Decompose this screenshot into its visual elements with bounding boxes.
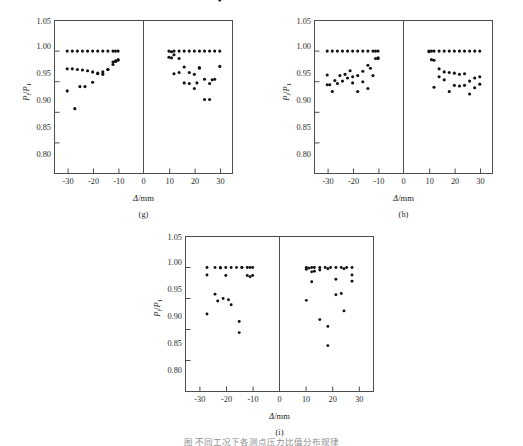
x-ticklabel: 10	[426, 177, 434, 186]
data-point	[478, 75, 481, 78]
x-tickmarks	[200, 387, 359, 392]
data-point	[432, 59, 435, 62]
data-point	[468, 80, 471, 83]
data-point	[478, 50, 481, 53]
data-point	[331, 90, 334, 93]
data-point	[224, 266, 227, 269]
data-point	[336, 82, 339, 85]
data-point	[246, 274, 249, 277]
data-point	[473, 50, 476, 53]
data-point	[326, 267, 329, 270]
y-ticklabel: 0.80	[36, 150, 51, 159]
data-point	[172, 72, 175, 75]
data-point	[329, 266, 332, 269]
data-point	[230, 266, 233, 269]
data-point	[216, 300, 219, 303]
data-point	[188, 71, 191, 74]
data-point	[356, 90, 359, 93]
data-point	[351, 266, 354, 269]
data-point	[443, 78, 446, 81]
y-axis-title-i: Pi/P1	[152, 299, 163, 318]
data-point	[432, 86, 435, 89]
data-point	[349, 69, 352, 72]
data-point	[334, 266, 337, 269]
data-point	[333, 79, 336, 82]
data-point	[66, 89, 69, 92]
data-point	[183, 50, 186, 53]
data-point	[326, 344, 329, 347]
data-point	[193, 73, 196, 76]
data-point	[91, 50, 94, 53]
data-point	[473, 86, 476, 89]
x-ticklabel: 0	[401, 177, 405, 186]
x-axis-unit: /mm	[138, 193, 154, 203]
data-point	[361, 70, 364, 73]
data-point	[238, 320, 241, 323]
data-point	[326, 73, 329, 76]
x-ticklabel: 30	[355, 395, 363, 404]
data-point	[310, 266, 313, 269]
data-point	[341, 50, 344, 53]
x-ticklabel: 30	[216, 177, 224, 186]
data-point	[463, 72, 466, 75]
data-point	[458, 50, 461, 53]
data-point	[351, 81, 354, 84]
chart-svg-g: 1.05 1.00 0.95 0.90 0.85 0.80 Pi/P1	[0, 0, 262, 223]
data-point	[81, 50, 84, 53]
data-point	[203, 50, 206, 53]
figure-panel-group: 1.05 1.00 0.95 0.90 0.85 0.80 Pi/P1	[0, 0, 523, 446]
data-point	[346, 50, 349, 53]
data-point	[172, 53, 175, 56]
data-point	[219, 267, 222, 270]
data-point	[351, 50, 354, 53]
y-ticklabel: 0.90	[167, 312, 182, 321]
data-point	[66, 50, 69, 53]
data-point	[369, 67, 372, 70]
chart-svg-i: 1.05 1.00 0.95 0.90 0.85 0.80 Pi/P1	[131, 216, 393, 439]
data-point	[208, 98, 211, 101]
data-point	[178, 50, 181, 53]
data-point	[356, 50, 359, 53]
data-point	[453, 72, 456, 75]
data-point	[443, 50, 446, 53]
data-point	[468, 50, 471, 53]
data-point	[438, 75, 441, 78]
x-ticklabel: -30	[194, 395, 205, 404]
data-point	[178, 57, 181, 60]
data-point	[206, 273, 209, 276]
data-point	[366, 87, 369, 90]
data-point	[249, 275, 252, 278]
data-point	[366, 50, 369, 53]
data-point	[101, 73, 104, 76]
x-axis-unit: /mm	[398, 193, 414, 203]
data-point	[183, 65, 186, 68]
data-point	[377, 50, 380, 53]
data-point	[377, 57, 380, 60]
chart-panel-i: 1.05 1.00 0.95 0.90 0.85 0.80 Pi/P1	[131, 216, 393, 439]
x-axis-ticklabels-i: -30 -20 -10 0 10 20 30	[194, 395, 363, 404]
y-tickmarks	[186, 237, 191, 392]
y-ticklabel: 0.80	[296, 150, 311, 159]
data-point	[235, 266, 238, 269]
data-point	[305, 268, 308, 271]
data-point	[230, 303, 233, 306]
data-point	[478, 83, 481, 86]
data-point	[213, 50, 216, 53]
y-ticklabel: 0.95	[36, 69, 51, 78]
data-point	[326, 50, 329, 53]
data-point	[178, 71, 181, 74]
data-point	[438, 50, 441, 53]
x-ticklabel: 10	[166, 177, 174, 186]
data-point	[224, 274, 227, 277]
figure-caption-text: 图 不同工况下各测点压力比值分布规律	[0, 436, 523, 446]
data-point	[334, 278, 337, 281]
data-point	[66, 67, 69, 70]
y-ticklabel: 0.90	[296, 96, 311, 105]
data-point	[214, 293, 217, 296]
x-tickmarks	[328, 169, 480, 174]
data-point	[91, 70, 94, 73]
data-point	[214, 266, 217, 269]
y-ticklabel: 1.05	[167, 233, 182, 242]
data-point	[341, 80, 344, 83]
y-ticklabel: 1.00	[296, 42, 311, 51]
